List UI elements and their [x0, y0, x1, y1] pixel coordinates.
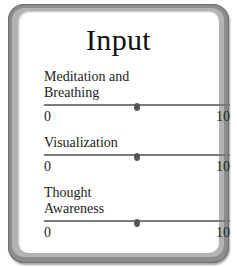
- slider-label-line: Awareness: [44, 201, 184, 217]
- slider-min-label: 0: [44, 159, 51, 175]
- slider-group-meditation-breathing: Meditation and Breathing 0 10: [44, 69, 230, 125]
- slider-max-label: 10: [216, 109, 230, 125]
- panel-title: Input: [18, 23, 219, 57]
- meditation-breathing-slider[interactable]: [44, 104, 230, 106]
- input-panel-frame: Input Meditation and Breathing 0 10 Visu…: [8, 4, 229, 263]
- thought-awareness-slider[interactable]: [44, 220, 230, 222]
- slider-label: Meditation and Breathing: [44, 69, 184, 101]
- slider-min-label: 0: [44, 225, 51, 241]
- slider-label-line: Visualization: [44, 135, 184, 151]
- slider-range: 0 10: [44, 225, 230, 241]
- slider-min-label: 0: [44, 109, 51, 125]
- slider-range: 0 10: [44, 109, 230, 125]
- slider-label-line: Breathing: [44, 85, 184, 101]
- slider-max-label: 10: [216, 225, 230, 241]
- slider-group-visualization: Visualization 0 10: [44, 135, 230, 175]
- slider-group-thought-awareness: Thought Awareness 0 10: [44, 185, 230, 241]
- slider-label: Visualization: [44, 135, 184, 151]
- slider-label-line: Thought: [44, 185, 184, 201]
- input-panel: Input Meditation and Breathing 0 10 Visu…: [18, 11, 219, 253]
- visualization-slider[interactable]: [44, 154, 230, 156]
- slider-label: Thought Awareness: [44, 185, 184, 217]
- slider-label-line: Meditation and: [44, 69, 184, 85]
- slider-max-label: 10: [216, 159, 230, 175]
- slider-range: 0 10: [44, 159, 230, 175]
